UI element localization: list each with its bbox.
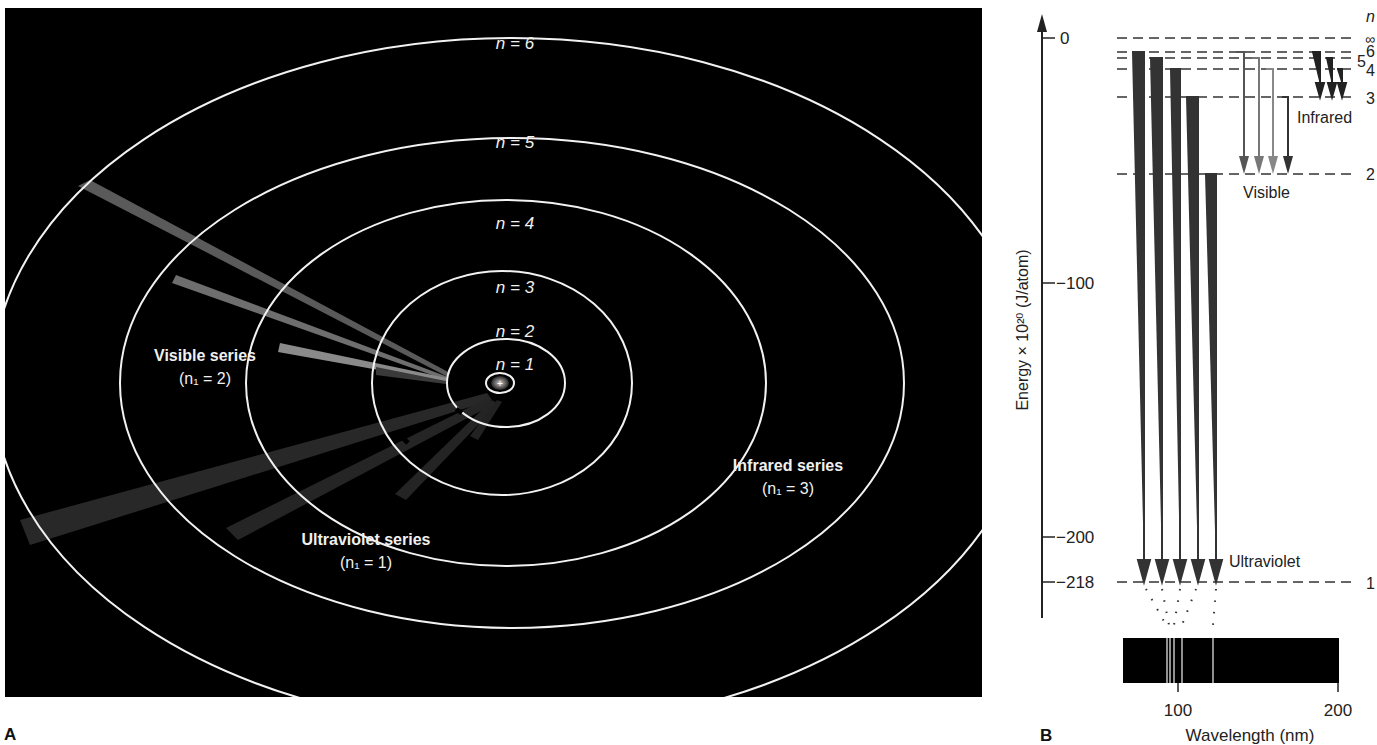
emission-spectrum xyxy=(1123,638,1339,692)
ultraviolet-label: Ultraviolet xyxy=(1229,553,1301,570)
x-tick-100: 100 xyxy=(1164,701,1192,720)
ultraviolet-transitions xyxy=(1132,52,1222,582)
infrared-transitions xyxy=(1312,52,1346,97)
y-tick-minus218: −218 xyxy=(1056,573,1094,592)
axis-arrow-icon xyxy=(1037,14,1047,32)
infrared-series-title: Infrared series xyxy=(733,457,843,474)
level-label-2: 2 xyxy=(1366,166,1375,183)
ultraviolet-series-title: Ultraviolet series xyxy=(302,531,431,548)
visible-transitions xyxy=(1236,52,1293,174)
orbit-label-n3: n = 3 xyxy=(496,278,535,297)
level-label-3: 3 xyxy=(1366,90,1375,107)
projection-dots xyxy=(1146,589,1216,625)
panel-b-energy-diagram: 0 −100 −200 −218 Energy × 10²⁰ (J/atom) … xyxy=(1014,8,1375,745)
level-label-4: 4 xyxy=(1366,62,1375,79)
orbit-label-n1: n = 1 xyxy=(496,355,534,374)
panel-b-letter: B xyxy=(1040,726,1052,745)
y-tick-minus200: −200 xyxy=(1056,528,1094,547)
plus-icon: + xyxy=(497,378,503,389)
x-axis-label: Wavelength (nm) xyxy=(1186,726,1315,745)
panel-a-bohr-model: + n = 6 n = 5 n = 4 n = 3 n = 2 n = 1 Vi… xyxy=(0,8,1032,744)
level-label-1: 1 xyxy=(1366,575,1375,592)
infrared-label: Infrared xyxy=(1297,109,1352,126)
nucleus: + xyxy=(491,376,509,390)
orbit-label-n2: n = 2 xyxy=(496,322,535,341)
level-label-5: 5 xyxy=(1357,53,1366,70)
panel-a-letter: A xyxy=(4,725,16,744)
x-tick-200: 200 xyxy=(1324,701,1352,720)
orbit-label-n5: n = 5 xyxy=(496,133,535,152)
visible-label: Visible xyxy=(1243,184,1290,201)
panel-a-background xyxy=(5,8,982,697)
orbit-label-n4: n = 4 xyxy=(496,214,534,233)
n-header: n xyxy=(1366,8,1375,25)
level-label-6: 6 xyxy=(1366,43,1375,60)
ultraviolet-series-subtitle: (n₁ = 1) xyxy=(340,554,392,571)
infrared-series-subtitle: (n₁ = 3) xyxy=(762,480,814,497)
y-axis-label: Energy × 10²⁰ (J/atom) xyxy=(1014,249,1031,410)
y-tick-minus100: −100 xyxy=(1056,274,1094,293)
hydrogen-spectrum-figure: + n = 6 n = 5 n = 4 n = 3 n = 2 n = 1 Vi… xyxy=(0,0,1377,745)
visible-series-subtitle: (n₁ = 2) xyxy=(179,370,231,387)
orbit-label-n6: n = 6 xyxy=(496,34,535,53)
visible-series-title: Visible series xyxy=(154,347,256,364)
y-tick-0: 0 xyxy=(1060,29,1069,48)
